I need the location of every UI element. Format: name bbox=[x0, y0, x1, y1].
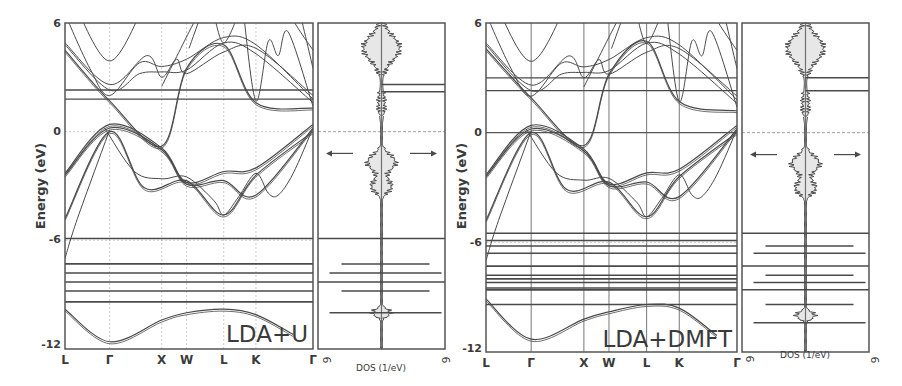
arrow-right-icon bbox=[431, 150, 437, 156]
band-line bbox=[584, 8, 624, 87]
arrow-left-icon bbox=[750, 152, 756, 158]
band-line bbox=[667, 14, 737, 107]
panel-label-lda-u: LDA+U bbox=[226, 321, 308, 347]
k-point-label: Γ bbox=[106, 353, 114, 367]
k-point-label: L bbox=[220, 353, 228, 367]
arrow-right-icon bbox=[855, 152, 861, 158]
figure: Energy (eV) 6 0 -6 -12 LDA+U LΓXWLKΓ DOS… bbox=[0, 0, 902, 386]
k-point-labels: LΓXWLKΓ bbox=[61, 353, 317, 367]
panel-label-lda-dmft: LDA+DMFT bbox=[602, 326, 733, 352]
k-point-label: L bbox=[61, 353, 69, 367]
dos-tick-right: 6 bbox=[868, 357, 881, 364]
dos-tick-left: 6 bbox=[320, 357, 333, 364]
k-point-label: Γ bbox=[309, 353, 317, 367]
y-axis-label: Energy (eV) bbox=[33, 143, 48, 229]
k-point-label: Γ bbox=[733, 356, 741, 370]
dos-axis-label: DOS (1/eV) bbox=[356, 363, 406, 373]
band-line bbox=[707, 5, 737, 51]
band-line bbox=[189, 14, 201, 48]
k-point-label: L bbox=[482, 356, 490, 370]
band-line bbox=[722, 5, 737, 69]
band-lines bbox=[486, 5, 737, 342]
band-lines bbox=[65, 5, 313, 344]
dos-tick-left: 6 bbox=[743, 356, 756, 363]
k-point-label: W bbox=[602, 356, 615, 370]
k-point-label: Γ bbox=[527, 356, 535, 370]
y-tick: 0 bbox=[474, 126, 482, 139]
k-point-label: K bbox=[251, 353, 261, 367]
band-line bbox=[298, 5, 313, 68]
band-line bbox=[214, 14, 239, 43]
arrow-left-icon bbox=[326, 150, 332, 156]
band-line bbox=[612, 14, 625, 49]
k-point-label: K bbox=[675, 356, 685, 370]
dos-envelope bbox=[785, 23, 826, 351]
y-tick: -6 bbox=[49, 233, 62, 246]
k-point-label: X bbox=[579, 356, 589, 370]
band-line bbox=[65, 45, 313, 148]
y-tick: 6 bbox=[474, 17, 482, 30]
y-tick: -12 bbox=[462, 342, 482, 355]
band-line bbox=[486, 125, 737, 185]
band-line bbox=[244, 14, 313, 106]
dos-lda-dmft bbox=[742, 23, 869, 352]
k-point-label: L bbox=[643, 356, 651, 370]
band-structure-lda-dmft bbox=[486, 5, 737, 352]
band-line bbox=[162, 9, 202, 87]
dos-axis-label: DOS (1/eV) bbox=[780, 350, 830, 360]
band-line bbox=[65, 124, 313, 183]
dos-envelope bbox=[361, 23, 402, 348]
k-point-label: X bbox=[157, 353, 167, 367]
band-line bbox=[105, 128, 313, 215]
plot-frame bbox=[65, 23, 313, 349]
k-point-labels: LΓXWLKΓ bbox=[482, 356, 741, 370]
band-line bbox=[637, 14, 662, 43]
band-line bbox=[526, 129, 737, 217]
band-line bbox=[65, 127, 313, 197]
y-axis-label: Energy (eV) bbox=[454, 143, 469, 229]
k-point-label: W bbox=[180, 353, 193, 367]
band-structure-lda-u bbox=[65, 5, 313, 349]
dos-lda-u bbox=[318, 23, 445, 349]
y-tick: -12 bbox=[41, 338, 61, 351]
dos-tick-right: 6 bbox=[439, 357, 452, 364]
band-line bbox=[283, 5, 313, 50]
y-tick: -6 bbox=[470, 236, 483, 249]
y-tick: 0 bbox=[53, 125, 61, 138]
y-tick: 6 bbox=[53, 17, 61, 30]
